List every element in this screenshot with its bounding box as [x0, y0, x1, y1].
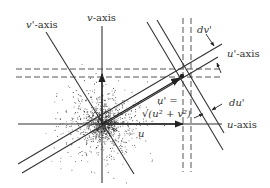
v-axis-label: v-axis	[87, 13, 116, 23]
du-prime-label: du'	[229, 98, 245, 108]
du-prime-strip-line-left	[147, 22, 223, 150]
du-prime-pointer-arrow	[212, 104, 222, 110]
intersection-point	[180, 74, 184, 78]
dv-prime-pointer-arrow	[206, 34, 214, 46]
v-prime-axis-label: v'-axis	[26, 20, 58, 30]
u-vector-label: u	[138, 129, 144, 139]
u-prime-axis-label: u'-axis	[227, 49, 260, 59]
velocity-scatter-cloud	[46, 64, 165, 188]
u-axis-label: u-axis	[227, 120, 257, 130]
dv-prime-label: dv'	[197, 25, 212, 35]
u-prime-equation-lhs: u' =	[157, 96, 178, 106]
dv-prime-pointer-arrow-lower	[217, 63, 221, 73]
u-prime-equation-rhs: √(u² + v²)	[142, 109, 191, 119]
du-prime-pointer-arrow-lower	[194, 114, 203, 118]
